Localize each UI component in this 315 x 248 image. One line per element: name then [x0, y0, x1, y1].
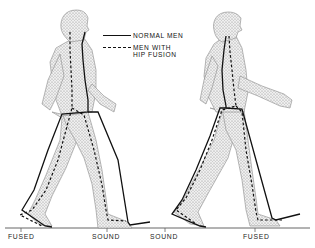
ground-label-fused-right: FUSED	[243, 233, 270, 240]
ground-label-sound-right: SOUND	[150, 233, 178, 240]
right-walker-head	[214, 12, 242, 42]
legend-label-hip-fusion-line2: HIP FUSION	[133, 51, 177, 58]
legend-label-normal-men: NORMAL MEN	[133, 32, 183, 39]
right-walker-figure	[172, 12, 300, 227]
legend-item-hip-fusion: MEN WITH HIP FUSION	[103, 44, 183, 58]
legend-item-normal-men: NORMAL MEN	[103, 32, 183, 39]
solid-line-swatch-icon	[103, 35, 131, 36]
left-walker-front-leg	[62, 112, 132, 228]
ground-label-fused-left: FUSED	[8, 233, 35, 240]
left-walker-head	[61, 10, 89, 42]
legend-label-hip-fusion-line1: MEN WITH	[133, 44, 177, 51]
legend: NORMAL MEN MEN WITH HIP FUSION	[103, 32, 183, 63]
dashed-line-swatch-icon	[103, 47, 131, 48]
right-walker-front-leg	[222, 108, 280, 226]
ground-label-sound-left: SOUND	[92, 233, 120, 240]
